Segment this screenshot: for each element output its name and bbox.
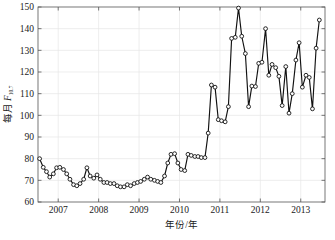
data-point-marker [267,73,271,77]
data-point-marker [240,34,244,38]
y-tick-label: 100 [20,111,35,121]
data-point-marker [317,18,321,22]
data-point-marker [274,66,278,70]
data-point-marker [284,65,288,69]
data-point-marker [51,172,55,176]
data-point-marker [290,92,294,96]
y-tick-label: 130 [20,46,35,56]
x-tick-label: 2010 [170,205,189,215]
data-point-marker [169,152,173,156]
x-tick-label: 2007 [49,205,68,215]
y-tick-label: 150 [20,2,35,12]
y-tick-label: 110 [20,89,34,99]
data-point-marker [243,52,247,56]
y-axis-ticks: 60708090100110120130140150 [20,2,325,207]
data-point-marker [58,165,62,169]
data-point-marker [38,157,42,161]
data-point-marker [129,184,133,188]
data-point-marker [206,131,210,135]
data-point-marker [280,104,284,108]
y-tick-label: 80 [25,154,35,164]
data-point-marker [139,180,143,184]
data-point-marker [85,166,89,170]
x-axis-title: 年份/年 [165,219,198,230]
y-axis-title-text: 每月 F10.7 [2,85,14,123]
data-point-marker [92,176,96,180]
x-tick-label: 2008 [89,205,108,215]
data-point-marker [300,85,304,89]
x-tick-label: 2013 [291,205,310,215]
data-point-marker [297,41,301,45]
chart-figure: 60708090100110120130140150 2007200820092… [0,0,335,240]
x-tick-label: 2009 [130,205,149,215]
data-point-marker [233,35,237,39]
y-axis-title: 每月 F10.7 [2,85,14,123]
data-point-marker [260,60,264,64]
y-tick-label: 120 [20,67,35,77]
data-point-marker [176,161,180,165]
data-point-marker [311,107,315,111]
data-point-marker [314,46,318,50]
y-tick-label: 70 [25,176,35,186]
data-point-marker [159,181,163,185]
x-tick-label: 2011 [211,205,230,215]
y-tick-label: 90 [25,132,35,142]
data-point-marker [166,161,170,165]
data-point-marker [173,152,177,156]
data-point-marker [287,111,291,115]
data-point-marker [237,6,241,10]
data-point-marker [65,172,69,176]
y-tick-label: 140 [20,24,35,34]
data-point-marker [45,170,49,174]
data-point-marker [48,175,52,179]
data-point-marker [163,174,167,178]
data-point-marker [82,177,86,181]
data-point-marker [88,174,92,178]
data-point-marker [247,105,251,109]
data-point-marker [223,120,227,124]
data-point-marker [270,63,274,67]
data-point-marker [213,85,217,89]
data-point-marker [203,156,207,160]
data-point-marker [68,177,72,181]
data-point-marker [98,177,102,181]
data-point-marker [226,105,230,109]
data-point-marker [183,169,187,173]
x-tick-label: 2012 [251,205,270,215]
data-point-marker [95,173,99,177]
data-point-marker [294,58,298,62]
line-chart: 60708090100110120130140150 2007200820092… [0,0,335,240]
data-point-marker [264,27,268,31]
data-point-marker [78,182,82,186]
data-point-marker [210,83,214,87]
data-point-marker [41,165,45,169]
data-point-marker [62,168,66,172]
data-point-marker [277,74,281,78]
data-point-marker [307,76,311,80]
data-point-marker [254,85,258,89]
y-tick-label: 60 [25,197,35,207]
